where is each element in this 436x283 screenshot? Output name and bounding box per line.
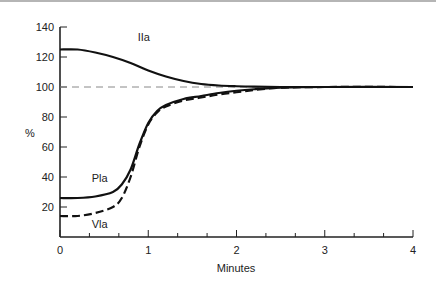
x-tick-label: 4 xyxy=(410,244,416,256)
x-tick-label: 0 xyxy=(57,244,63,256)
line-chart: 2040608010012014001234 IIaPlaVla Minutes… xyxy=(0,0,436,283)
series-iia xyxy=(60,49,413,87)
series-pla xyxy=(60,87,413,198)
x-tick-label: 3 xyxy=(322,244,328,256)
y-tick-label: 140 xyxy=(36,21,54,33)
y-tick-label: 80 xyxy=(42,111,54,123)
x-tick-label: 2 xyxy=(233,244,239,256)
x-axis-label: Minutes xyxy=(217,262,256,274)
series-label-pla: Pla xyxy=(92,172,109,184)
y-tick-label: 100 xyxy=(36,81,54,93)
series-label-iia: IIa xyxy=(138,31,151,43)
series-vla xyxy=(60,87,413,216)
y-tick-label: 120 xyxy=(36,51,54,63)
x-tick-label: 1 xyxy=(145,244,151,256)
series-group xyxy=(60,49,413,216)
y-axis-label: % xyxy=(25,127,35,139)
y-tick-label: 20 xyxy=(42,201,54,213)
series-label-vla: Vla xyxy=(92,218,109,230)
y-tick-label: 60 xyxy=(42,141,54,153)
y-tick-label: 40 xyxy=(42,171,54,183)
